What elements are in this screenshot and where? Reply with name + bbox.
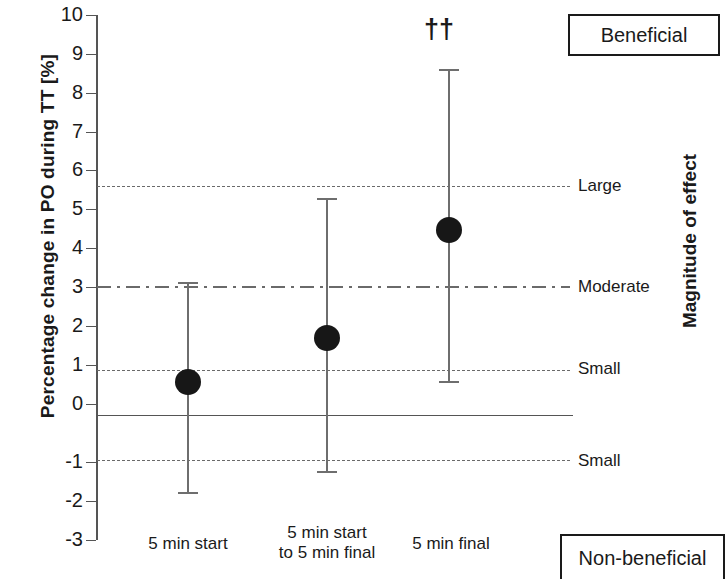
reference-line-zero xyxy=(97,415,573,416)
magnitude-label-large: Large xyxy=(578,177,621,194)
y-tick-label-6: 6 xyxy=(43,159,83,179)
verdict-non-beneficial-label: Non-beneficial xyxy=(579,547,707,570)
error-bar-2-cap-upper xyxy=(317,198,337,200)
magnitude-label-small-negative: Small xyxy=(578,452,621,469)
x-axis-label-3: 5 min final xyxy=(376,534,526,554)
y-tick-minus1 xyxy=(86,462,96,463)
reference-line-small-positive xyxy=(97,370,570,371)
y-tick-label-3: 3 xyxy=(43,276,83,296)
reference-line-moderate-positive xyxy=(97,286,570,288)
verdict-beneficial-box: Beneficial xyxy=(568,14,720,56)
error-bar-2-cap-lower xyxy=(317,471,337,473)
y-tick-4 xyxy=(86,248,96,249)
y-tick-label-2: 2 xyxy=(43,315,83,335)
reference-line-large-positive xyxy=(97,186,570,187)
magnitude-label-moderate: Moderate xyxy=(578,278,650,295)
x-axis-label-3-line1: 5 min final xyxy=(376,534,526,554)
y-tick-label-10: 10 xyxy=(43,4,83,24)
y-tick-minus3 xyxy=(86,540,96,541)
y-tick-label-4: 4 xyxy=(43,237,83,257)
reference-line-small-negative xyxy=(97,460,570,461)
y-tick-minus2 xyxy=(86,501,96,502)
y-axis-line xyxy=(96,15,98,540)
y-tick-8 xyxy=(86,93,96,94)
y-tick-0 xyxy=(86,404,96,405)
y-tick-label-7: 7 xyxy=(43,121,83,141)
data-point-1 xyxy=(175,369,201,395)
y-tick-2 xyxy=(86,326,96,327)
x-axis-label-1-line1: 5 min start xyxy=(113,534,263,554)
verdict-non-beneficial-box: Non-beneficial xyxy=(560,534,725,579)
right-axis-title: Magnitude of effect xyxy=(679,111,701,371)
y-tick-label-5: 5 xyxy=(43,198,83,218)
data-point-2 xyxy=(314,325,340,351)
error-bar-3-cap-lower xyxy=(439,381,459,383)
y-tick-label-1: 1 xyxy=(43,354,83,374)
y-tick-label-minus1: -1 xyxy=(43,451,83,471)
y-tick-3 xyxy=(86,287,96,288)
error-bar-1-cap-upper xyxy=(178,282,198,284)
y-tick-5 xyxy=(86,209,96,210)
error-bar-1-cap-lower xyxy=(178,492,198,494)
verdict-beneficial-label: Beneficial xyxy=(601,24,688,47)
y-tick-label-minus2: -2 xyxy=(43,490,83,510)
data-point-3 xyxy=(436,217,462,243)
y-tick-6 xyxy=(86,170,96,171)
y-tick-label-minus3: -3 xyxy=(43,529,83,549)
y-tick-1 xyxy=(86,365,96,366)
y-tick-label-9: 9 xyxy=(43,43,83,63)
error-bar-3-cap-upper xyxy=(439,69,459,71)
y-tick-10 xyxy=(86,15,96,16)
y-tick-7 xyxy=(86,132,96,133)
x-axis-label-1: 5 min start xyxy=(113,534,263,554)
significance-marker-3: †† xyxy=(424,16,454,43)
magnitude-label-small-positive: Small xyxy=(578,360,621,377)
y-tick-label-8: 8 xyxy=(43,82,83,102)
y-tick-9 xyxy=(86,54,96,55)
chart-figure: Percentage change in PO during TT [%] Ma… xyxy=(0,0,725,579)
y-tick-label-0: 0 xyxy=(43,393,83,413)
